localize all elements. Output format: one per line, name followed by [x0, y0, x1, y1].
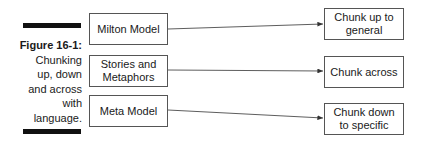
box-chunk-down: Chunk downto specific: [324, 103, 404, 135]
box-chunk-up: Chunk up togeneral: [324, 8, 404, 40]
arrow-meta-to-chunk-down: [168, 110, 323, 118]
arrow-stories-to-chunk-across: [168, 70, 323, 71]
box-milton-model: Milton Model: [89, 13, 168, 45]
box-meta-model: Meta Model: [89, 95, 168, 127]
box-chunk-across: Chunk across: [324, 56, 404, 88]
box-stories-and-metaphors: Stories andMetaphors: [89, 55, 168, 87]
arrow-milton-to-chunk-up: [168, 24, 323, 29]
